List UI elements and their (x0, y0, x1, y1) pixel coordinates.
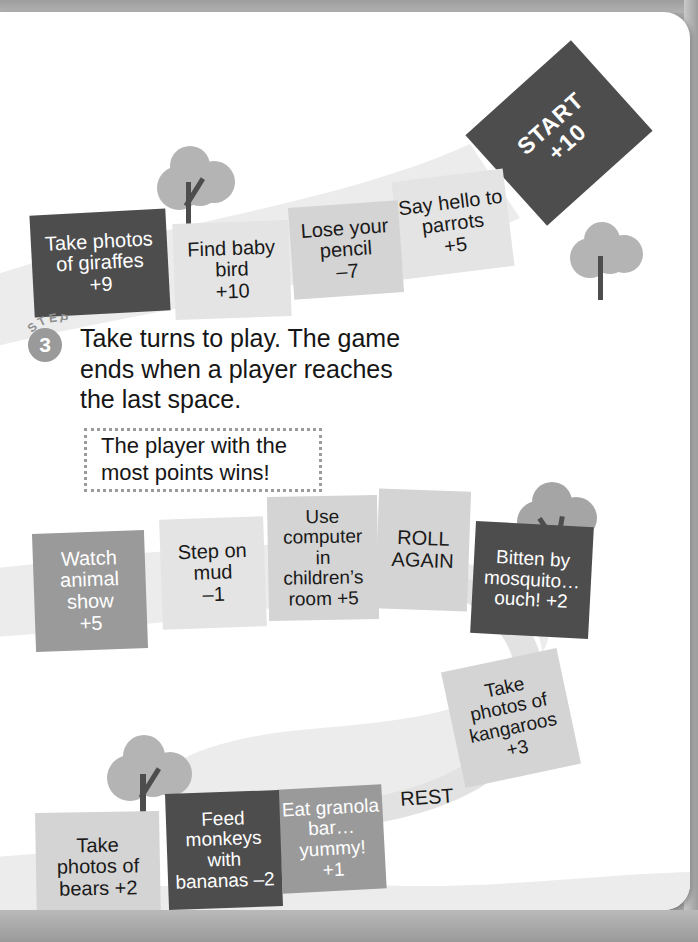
board-tile-bears[interactable]: Take photos of bears +2 (35, 811, 161, 910)
board-tile-baby-bird[interactable]: Find baby bird +10 (172, 220, 291, 320)
winning-rule-text: The player with the most points wins! (101, 433, 319, 487)
board-tile-monkeys[interactable]: Feed monkeys with bananas –2 (165, 790, 283, 910)
step-instruction-text: Take turns to play. The game ends when a… (80, 323, 420, 415)
board-tile-computer[interactable]: Use computer in children’s room +5 (267, 495, 379, 621)
workbook-page: START +10 Say hello to parrots +5 Lose y… (0, 12, 690, 910)
page-bottom-edge (0, 910, 698, 942)
board-tile-rest[interactable]: REST (389, 776, 465, 819)
board-tile-roll-again[interactable]: ROLL AGAIN (375, 488, 471, 611)
board-tile-pencil[interactable]: Lose your pencil –7 (288, 200, 404, 299)
board-tile-mosquito[interactable]: Bitten by mosquito… ouch! +2 (470, 521, 594, 639)
board-tile-giraffes[interactable]: Take photos of giraffes +9 (29, 209, 170, 318)
winning-rule-callout: The player with the most points wins! (84, 428, 322, 492)
step-number-badge: 3 (28, 328, 62, 362)
tree-top-right (566, 216, 650, 306)
board-tile-mud[interactable]: Step on mud –1 (159, 516, 267, 630)
board-tile-granola[interactable]: Eat granola bar… yummy! +1 (277, 784, 386, 893)
board-tile-parrots[interactable]: Say hello to parrots +5 (391, 169, 514, 280)
board-tile-animal-show[interactable]: Watch animal show +5 (32, 530, 148, 652)
board-tile-kangaroos[interactable]: Take photos of kangaroos +3 (441, 648, 581, 788)
